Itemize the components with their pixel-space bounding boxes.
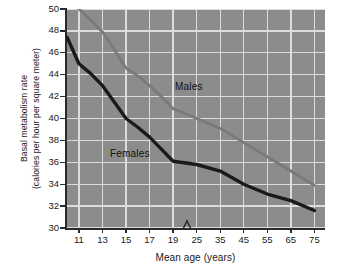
x-tick: [172, 229, 173, 233]
x-tick: [125, 229, 126, 233]
y-tick-label: 40: [19, 112, 59, 123]
y-tick: [60, 96, 65, 97]
x-tick: [102, 229, 103, 233]
x-tick: [78, 229, 79, 233]
x-tick: [243, 229, 244, 233]
y-tick-label: 48: [19, 24, 59, 35]
x-tick: [220, 229, 221, 233]
y-tick-label: 36: [19, 156, 59, 167]
y-tick-label: 38: [19, 134, 59, 145]
chart-figure: Basal metabolism rate (calories per hour…: [0, 0, 341, 276]
y-tick: [60, 8, 65, 9]
x-tick: [267, 229, 268, 233]
series-line-females: [67, 37, 314, 210]
x-tick: [149, 229, 150, 233]
series-label-females: Females: [110, 148, 150, 159]
y-tick: [60, 74, 65, 75]
y-tick: [60, 30, 65, 31]
y-tick-label: 42: [19, 90, 59, 101]
y-tick-label: 50: [19, 3, 59, 14]
y-tick-label: 46: [19, 46, 59, 57]
y-tick: [60, 162, 65, 163]
x-tick: [290, 229, 291, 233]
x-tick: [314, 229, 315, 233]
x-axis-title: Mean age (years): [66, 252, 325, 263]
y-tick-label: 32: [19, 200, 59, 211]
series-label-males: Males: [175, 81, 203, 92]
y-tick: [60, 52, 65, 53]
y-tick: [60, 140, 65, 141]
y-tick-label: 34: [19, 178, 59, 189]
y-tick: [60, 118, 65, 119]
y-tick-label: 44: [19, 68, 59, 79]
x-tick-label: 75: [299, 234, 329, 245]
y-tick-label: 30: [19, 222, 59, 233]
y-tick: [60, 205, 65, 206]
series-curves: [66, 9, 325, 228]
y-tick: [60, 184, 65, 185]
y-tick: [60, 227, 65, 228]
